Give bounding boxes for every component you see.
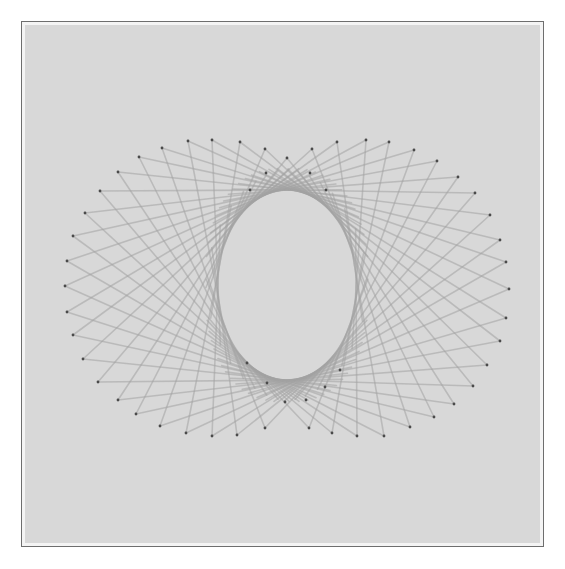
string-art-pattern (0, 0, 565, 569)
